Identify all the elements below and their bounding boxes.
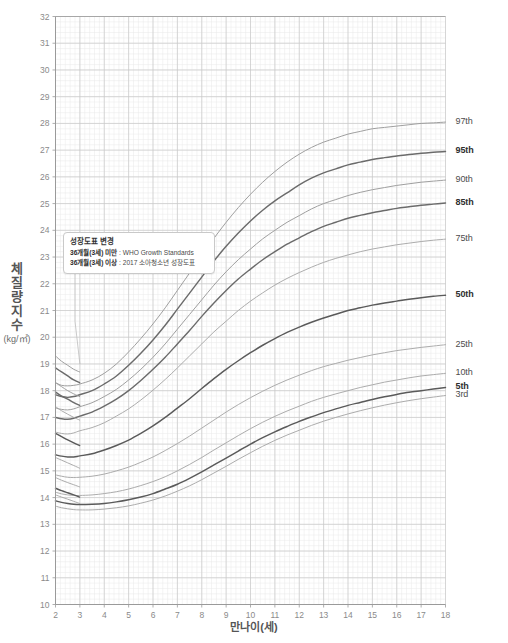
- y-tick-label: 23: [28, 252, 50, 262]
- x-axis-title: 만나이(세): [0, 618, 508, 634]
- y-tick-label: 16: [28, 439, 50, 449]
- growth-standard-annotation: 성장도표 변경 36개월(3세) 미만 : WHO Growth Standar…: [63, 232, 215, 274]
- percentile-label-3rd: 3rd: [456, 389, 469, 399]
- y-tick-label: 19: [28, 359, 50, 369]
- annotation-line-1-value: WHO Growth Standards: [123, 249, 194, 256]
- annotation-line-1: 36개월(3세) 미만 : WHO Growth Standards: [70, 248, 208, 258]
- y-tick-label: 32: [28, 12, 50, 22]
- annotation-line-2: 36개월(3세) 이상 : 2017 소아청소년 성장도표: [70, 258, 208, 268]
- y-tick-label: 20: [28, 332, 50, 342]
- percentile-label-85th: 85th: [456, 197, 474, 207]
- x-tick-label: 9: [216, 610, 236, 620]
- y-tick-label: 28: [28, 118, 50, 128]
- percentile-label-95th: 95th: [456, 145, 474, 155]
- x-tick-label: 11: [265, 610, 285, 620]
- y-tick-label: 10: [28, 600, 50, 610]
- percentile-label-10th: 10th: [456, 367, 473, 377]
- y-tick-label: 31: [28, 38, 50, 48]
- bmi-growth-chart: 체 질 량 지 수 (kg/㎡) 만나이(세) 97th95th90th85th…: [0, 0, 508, 643]
- y-tick-label: 27: [28, 145, 50, 155]
- y-tick-label: 25: [28, 199, 50, 209]
- chart-plot-area: [0, 0, 508, 643]
- y-tick-label: 21: [28, 306, 50, 316]
- y-tick-label: 26: [28, 172, 50, 182]
- percentile-label-50th: 50th: [456, 289, 474, 299]
- y-tick-label: 22: [28, 279, 50, 289]
- annotation-line-2-value: 2017 소아청소년 성장도표: [123, 259, 195, 266]
- y-tick-label: 29: [28, 92, 50, 102]
- annotation-leader-line: [75, 260, 80, 364]
- x-tick-label: 18: [436, 610, 456, 620]
- annotation-line-2-label: 36개월(3세) 이상: [70, 259, 117, 266]
- x-tick-label: 4: [94, 610, 114, 620]
- percentile-label-90th: 90th: [456, 174, 473, 184]
- x-tick-label: 2: [46, 610, 66, 620]
- x-tick-label: 13: [314, 610, 334, 620]
- percentile-curve-who-50th: [56, 433, 80, 445]
- x-tick-label: 15: [362, 610, 382, 620]
- y-tick-label: 18: [28, 386, 50, 396]
- x-tick-label: 7: [167, 610, 187, 620]
- percentile-label-97th: 97th: [456, 116, 473, 126]
- x-tick-label: 12: [289, 610, 309, 620]
- y-tick-label: 15: [28, 466, 50, 476]
- x-tick-label: 6: [143, 610, 163, 620]
- y-tick-label: 24: [28, 225, 50, 235]
- percentile-label-25th: 25th: [456, 339, 473, 349]
- y-tick-label: 13: [28, 519, 50, 529]
- y-tick-label: 30: [28, 65, 50, 75]
- percentile-curve-who-10th: [56, 478, 80, 487]
- annotation-title: 성장도표 변경: [70, 237, 208, 246]
- y-tick-label: 11: [28, 573, 50, 583]
- x-tick-label: 5: [119, 610, 139, 620]
- x-tick-label: 17: [411, 610, 431, 620]
- percentile-curve-who-25th: [56, 458, 80, 469]
- y-tick-label: 12: [28, 546, 50, 556]
- x-tick-label: 3: [70, 610, 90, 620]
- percentile-curve-who-85th: [56, 392, 80, 405]
- annotation-line-1-label: 36개월(3세) 미만: [70, 249, 117, 256]
- y-tick-label: 14: [28, 493, 50, 503]
- x-tick-label: 14: [338, 610, 358, 620]
- x-tick-label: 10: [241, 610, 261, 620]
- x-tick-label: 16: [387, 610, 407, 620]
- y-tick-label: 17: [28, 412, 50, 422]
- x-tick-label: 8: [192, 610, 212, 620]
- percentile-label-75th: 75th: [456, 233, 473, 243]
